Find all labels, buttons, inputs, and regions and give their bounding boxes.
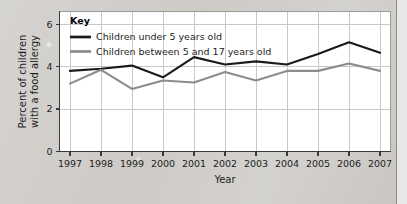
legend-label-2: Children between 5 and 17 years old [96, 46, 271, 57]
y-tick-label-2: 2 [46, 103, 52, 114]
x-tick-label-2002: 2002 [213, 158, 237, 169]
x-tick-label-2001: 2001 [182, 158, 206, 169]
x-tick-label-2005: 2005 [306, 158, 330, 169]
x-tick-label-1999: 1999 [120, 158, 144, 169]
x-tick-label-2000: 2000 [151, 158, 175, 169]
x-tick-label-2004: 2004 [275, 158, 299, 169]
x-tick-label-2007: 2007 [368, 158, 392, 169]
y-axis-title-line2: with a food allergy [29, 35, 40, 128]
legend-label-1: Children under 5 years old [96, 31, 222, 42]
x-tick-label-2003: 2003 [244, 158, 268, 169]
y-tick-label-6: 6 [46, 19, 52, 30]
page-right-margin [397, 0, 407, 204]
x-tick-label-1998: 1998 [89, 158, 113, 169]
y-tick-label-4: 4 [46, 61, 52, 72]
x-tick-label-1997: 1997 [58, 158, 82, 169]
line-chart: 0246199719981999200020012002200320042005… [0, 0, 397, 204]
y-tick-label-0: 0 [46, 146, 52, 157]
legend-title: Key [70, 15, 91, 26]
chart-canvas: 0246199719981999200020012002200320042005… [0, 0, 397, 204]
y-axis-title-line1: Percent of children [17, 35, 28, 129]
x-axis-title: Year [213, 174, 236, 185]
x-tick-label-2006: 2006 [337, 158, 361, 169]
